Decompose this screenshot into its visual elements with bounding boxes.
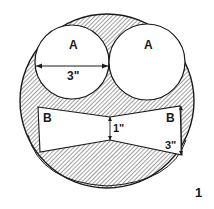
label-a-left: A xyxy=(69,38,78,52)
label-1in-center: 1" xyxy=(113,122,124,134)
label-a-right: A xyxy=(144,38,153,52)
figure-number: 1 xyxy=(195,185,202,200)
circle-a-right xyxy=(109,24,185,100)
label-b-right: B xyxy=(166,111,175,125)
label-3in-edge: 3" xyxy=(165,139,176,151)
label-b-left: B xyxy=(43,111,52,125)
circle-a-left xyxy=(35,25,109,99)
diagram-canvas: A 3" A B B 1" 3" 1 xyxy=(0,0,214,209)
label-3in-circle: 3" xyxy=(67,69,79,83)
